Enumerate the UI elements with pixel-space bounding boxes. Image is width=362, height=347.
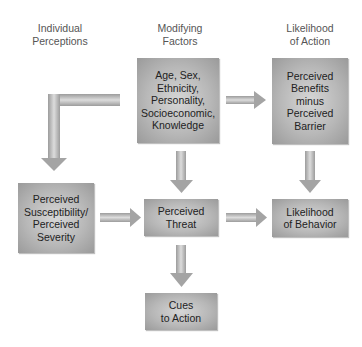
- right-arrow-icon: [100, 208, 141, 227]
- down-arrow-icon: [170, 151, 193, 193]
- box-perceived-threat: Perceived Threat: [144, 199, 218, 236]
- elbow-arrow-icon: [41, 94, 120, 171]
- right-arrow-icon: [226, 91, 266, 109]
- box-modifying-factors: Age, Sex, Ethnicity, Personality, Socioe…: [137, 58, 219, 143]
- box-cues-to-action: Cues to Action: [145, 293, 217, 330]
- down-arrow-icon: [170, 245, 193, 287]
- right-arrow-icon: [226, 208, 267, 227]
- box-likelihood-of-behavior: Likelihood of Behavior: [272, 199, 348, 237]
- box-benefits-minus-barrier: Perceived Benefits minus Perceived Barri…: [272, 58, 348, 144]
- down-arrow-icon: [299, 151, 321, 193]
- box-susceptibility-severity: Perceived Susceptibility/ Perceived Seve…: [18, 183, 94, 253]
